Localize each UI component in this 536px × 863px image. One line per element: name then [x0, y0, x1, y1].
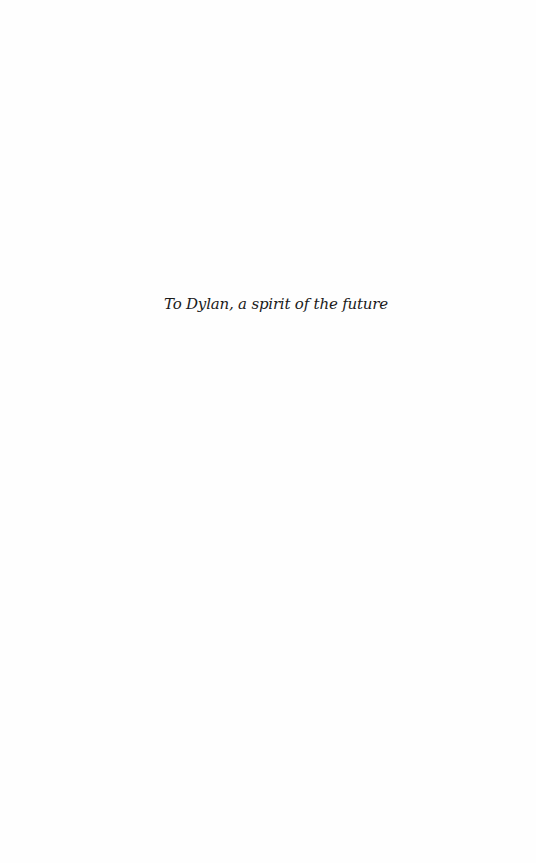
- dedication-text: To Dylan, a spirit of the future: [164, 295, 388, 313]
- book-page: To Dylan, a spirit of the future: [0, 0, 536, 863]
